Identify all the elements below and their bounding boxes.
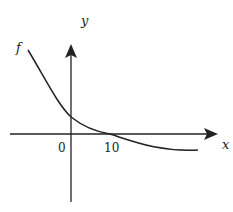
y-axis-label: y — [80, 13, 89, 28]
tick-0: 0 — [58, 141, 66, 155]
x-axis-label: x — [222, 137, 230, 152]
y-axis — [65, 44, 77, 202]
x-axis — [10, 128, 218, 140]
graph: x y f 0 10 — [0, 0, 233, 212]
curve-label: f — [15, 40, 23, 55]
curve-f — [28, 50, 198, 150]
tick-10: 10 — [104, 141, 119, 155]
